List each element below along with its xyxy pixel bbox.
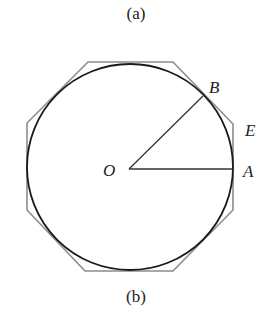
label-A: A (242, 162, 254, 181)
radius-OB (129, 96, 203, 169)
circle (27, 64, 233, 270)
label-O: O (103, 161, 115, 180)
caption-b: (b) (0, 287, 272, 307)
label-E: E (244, 121, 256, 140)
circumscribed-octagon-diagram: O A B E (0, 0, 272, 326)
label-B: B (209, 78, 220, 97)
